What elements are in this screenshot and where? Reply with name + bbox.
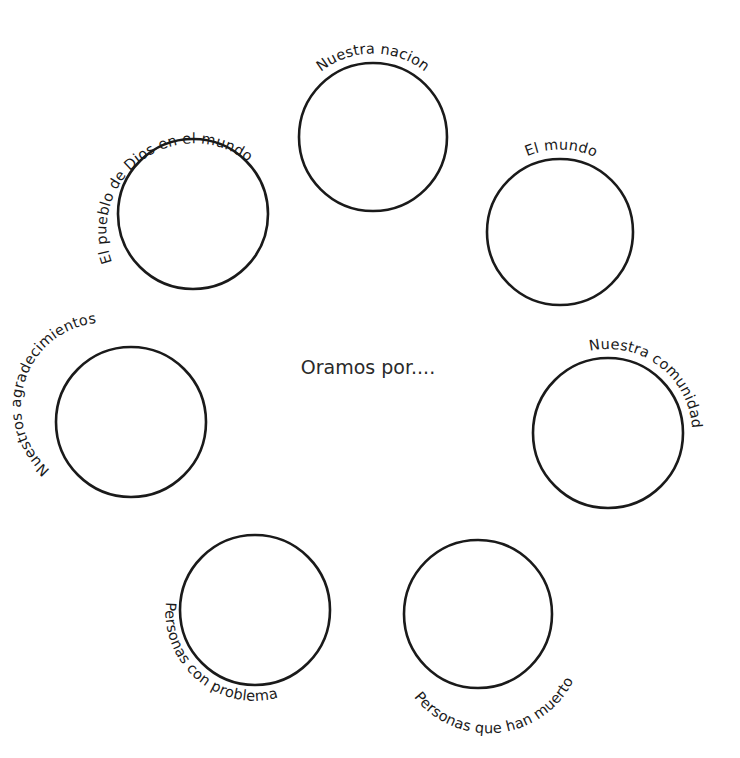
circle-ring	[180, 535, 330, 685]
circle-nuestra-nacion: Nuestra nacion	[299, 40, 447, 211]
circle-label: Personas que han muerto	[412, 674, 577, 736]
circle-label: Nuestra comunidad	[588, 336, 705, 429]
circle-label: El pueblo de Dios en el mundo	[93, 130, 256, 266]
prayer-circles-worksheet: Nuestra nacion El pueblo de Dios en el m…	[0, 0, 740, 758]
circle-nuestros-agradecimientos: Nuestros agradecimientos	[8, 310, 206, 497]
circle-ring	[533, 358, 683, 508]
label-el-pueblo-de-dios: El pueblo de Dios en el mundo	[93, 130, 256, 266]
circle-ring	[404, 540, 552, 688]
circle-el-mundo: El mundo	[487, 136, 633, 305]
label-personas-que-han-muerto: Personas que han muerto	[412, 674, 577, 736]
circle-label: Nuestros agradecimientos	[8, 310, 97, 479]
label-nuestros-agradecimientos: Nuestros agradecimientos	[8, 310, 97, 479]
label-nuestra-comunidad: Nuestra comunidad	[588, 336, 705, 429]
circle-ring	[56, 347, 206, 497]
circle-ring	[299, 63, 447, 211]
circle-label: Nuestra nacion	[313, 40, 433, 74]
circle-el-pueblo-de-dios: El pueblo de Dios en el mundo	[93, 130, 268, 289]
label-nuestra-nacion: Nuestra nacion	[313, 40, 433, 74]
circle-nuestra-comunidad: Nuestra comunidad	[533, 336, 705, 508]
label-el-mundo: El mundo	[522, 136, 600, 160]
circle-label: El mundo	[522, 136, 600, 160]
circle-ring	[487, 159, 633, 305]
center-title: Oramos por....	[301, 356, 435, 378]
circle-personas-con-problemas: Personas con problemas	[0, 0, 330, 704]
circle-personas-que-han-muerto: Personas que han muerto	[404, 540, 576, 736]
